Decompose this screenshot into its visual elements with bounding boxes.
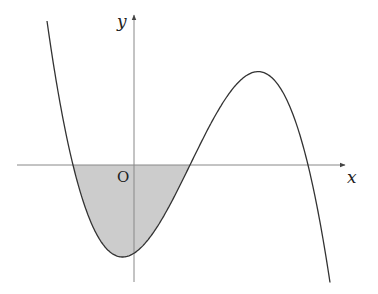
shaded-region [73, 165, 190, 257]
origin-label: O [117, 168, 129, 186]
x-axis-label: x [347, 167, 357, 187]
y-axis-label: y [116, 11, 127, 31]
cubic-curve [47, 21, 330, 283]
function-graph: y x O [0, 0, 378, 294]
